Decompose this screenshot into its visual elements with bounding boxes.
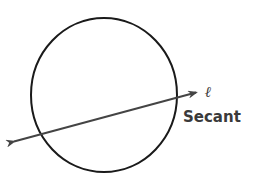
secant-label: Secant xyxy=(183,108,241,126)
secant-line xyxy=(14,93,196,142)
secant-diagram: ℓ Secant xyxy=(0,0,260,179)
circle xyxy=(31,18,177,172)
line-label: ℓ xyxy=(205,83,211,101)
